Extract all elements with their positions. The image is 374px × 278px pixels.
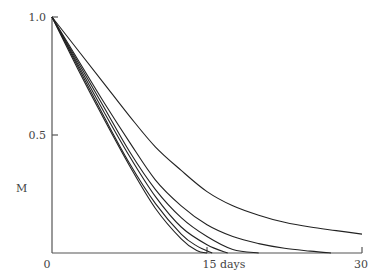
x-origin-label: 0 [44, 258, 51, 271]
decay-chart: 1.0 0.5 M 0 15 days 30 [0, 0, 374, 278]
decay-curve-5 [52, 17, 212, 253]
y-tick-label-mid: 0.5 [29, 129, 47, 142]
y-tick-label-top: 1.0 [29, 11, 47, 24]
decay-curve-3 [52, 17, 259, 253]
decay-curve-2 [52, 17, 331, 253]
x-tick-label-end: 30 [354, 258, 368, 271]
decay-curve-1 [52, 17, 362, 234]
decay-curve-4 [52, 17, 228, 253]
x-tick-label-mid: 15 days [203, 258, 246, 271]
curve-group [52, 17, 362, 253]
y-axis-label: M [16, 182, 27, 195]
decay-curve-6 [52, 17, 207, 253]
